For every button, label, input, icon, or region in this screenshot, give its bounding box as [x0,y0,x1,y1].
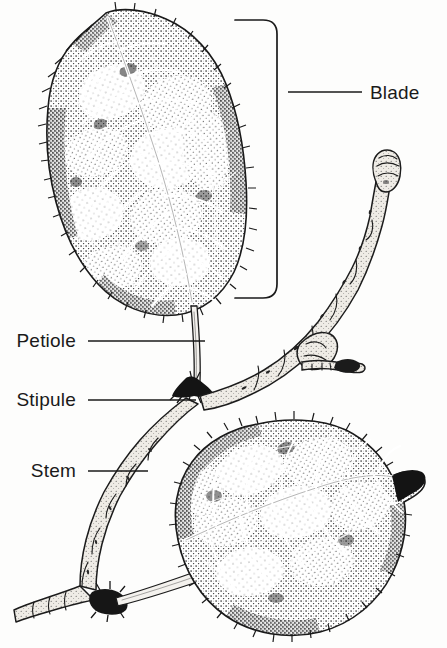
label-stem: Stem [31,460,76,481]
leaf-diagram-figure: Blade Petiole Stipule Stem [0,0,447,648]
terminal-bud [373,150,401,192]
label-stipule: Stipule [17,389,77,410]
label-blade: Blade [370,82,420,103]
label-petiole: Petiole [17,330,77,351]
diagram-canvas: Blade Petiole Stipule Stem [0,0,447,648]
